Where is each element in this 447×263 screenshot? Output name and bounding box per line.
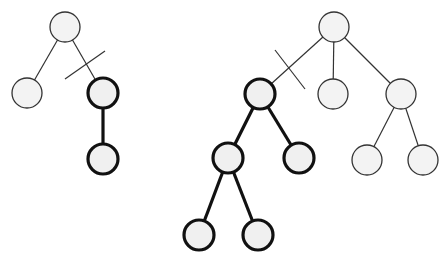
subtree-node-L2 (88, 78, 118, 108)
tree-node-R0 (319, 12, 349, 42)
tree-node-R3 (386, 79, 416, 109)
left-tree-cut-mark-0 (65, 51, 105, 79)
tree-node-R7 (408, 145, 438, 175)
subtree-node-R1 (245, 79, 275, 109)
tree-node-R2 (318, 79, 348, 109)
subtree-node-R4 (213, 143, 243, 173)
tree-node-R6 (352, 145, 382, 175)
edges-layer (27, 27, 423, 235)
nodes-layer (12, 12, 438, 250)
subtree-node-R9 (243, 220, 273, 250)
subtree-node-R5 (284, 143, 314, 173)
tree-node-L1 (12, 78, 42, 108)
subtree-node-R8 (184, 220, 214, 250)
subtree-node-L3 (88, 144, 118, 174)
tree-node-L0 (50, 12, 80, 42)
right-tree-cut-mark-0 (275, 50, 305, 89)
tree-diagram (0, 0, 447, 263)
